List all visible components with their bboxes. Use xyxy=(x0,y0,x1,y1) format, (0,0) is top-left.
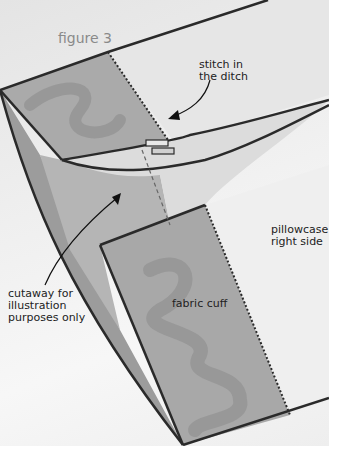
label-pillowcase-right-side-text: pillowcase right side xyxy=(271,224,328,248)
label-stitch-in-the-ditch: stitch in the ditch xyxy=(199,59,248,83)
label-line: right side xyxy=(271,236,328,248)
figure-title: figure 3 xyxy=(58,30,112,46)
label-line: the ditch xyxy=(199,71,248,83)
label-cutaway: cutaway for illustration purposes only xyxy=(8,288,85,324)
label-line: purposes only xyxy=(8,312,85,324)
label-fabric-cuff: fabric cuff xyxy=(172,298,227,310)
